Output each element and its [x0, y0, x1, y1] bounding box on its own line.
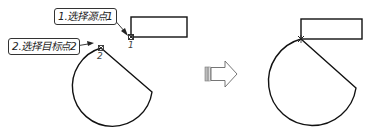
source-rectangle — [131, 17, 187, 37]
right-arrow-icon — [205, 61, 237, 87]
after-panel — [268, 19, 362, 125]
result-rectangle — [301, 19, 362, 39]
target-point-label: 2 — [97, 52, 103, 61]
target-arc-shape — [72, 48, 152, 126]
callout-select-source-point: 1.选择源点1 — [54, 8, 117, 25]
result-arc-shape — [268, 39, 356, 125]
source-point-label: 1 — [128, 41, 134, 50]
before-panel — [72, 17, 187, 126]
callout-select-target-point: 2.选择目标点2 — [8, 38, 80, 55]
